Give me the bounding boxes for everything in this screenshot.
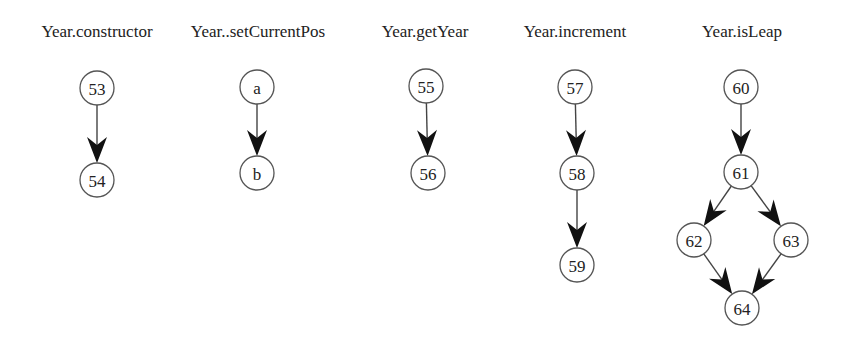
svg-text:64: 64 (734, 300, 752, 319)
graph-3: 575859 (558, 70, 594, 282)
svg-text:61: 61 (733, 164, 750, 183)
edge-a-b (247, 104, 267, 156)
edge-62-64 (704, 254, 732, 294)
graph-2: 5556 (409, 69, 445, 190)
arrowhead-icon (757, 199, 780, 226)
svg-text:62: 62 (686, 232, 703, 251)
edge-53-54 (87, 105, 107, 163)
node-58: 58 (560, 156, 594, 190)
graph-1: ab (240, 70, 274, 190)
node-57: 57 (558, 70, 592, 104)
node-63: 63 (774, 223, 808, 257)
node-53: 53 (80, 71, 114, 105)
node-54: 54 (80, 163, 114, 197)
svg-text:57: 57 (567, 79, 585, 98)
edge-55-56 (417, 103, 437, 156)
node-60: 60 (724, 70, 758, 104)
node-a: a (240, 70, 274, 104)
svg-text:b: b (253, 165, 262, 184)
svg-text:60: 60 (733, 79, 750, 98)
node-62: 62 (677, 223, 711, 257)
edge-63-64 (752, 254, 781, 294)
graph-4: 6061626364 (677, 70, 808, 325)
edge-61-63 (751, 186, 781, 227)
node-61: 61 (724, 155, 758, 189)
node-59: 59 (560, 248, 594, 282)
svg-text:58: 58 (569, 165, 586, 184)
svg-text:54: 54 (89, 172, 107, 191)
svg-text:59: 59 (569, 257, 586, 276)
graph-0: 5354 (80, 71, 114, 197)
svg-text:53: 53 (89, 80, 106, 99)
svg-text:56: 56 (420, 165, 437, 184)
node-55: 55 (409, 69, 443, 103)
control-flow-graphs: 5354ab55565758596061626364 (0, 0, 848, 342)
svg-text:63: 63 (783, 232, 800, 251)
edge-57-58 (566, 104, 586, 156)
node-56: 56 (411, 156, 445, 190)
arrowhead-icon (709, 267, 732, 294)
arrowhead-icon (704, 199, 727, 226)
edge-58-59 (567, 190, 587, 248)
edge-60-61 (731, 104, 751, 155)
svg-text:a: a (253, 79, 261, 98)
edge-61-62 (704, 186, 732, 226)
svg-text:55: 55 (418, 78, 435, 97)
node-b: b (240, 156, 274, 190)
node-64: 64 (725, 291, 759, 325)
arrowhead-icon (752, 267, 775, 294)
